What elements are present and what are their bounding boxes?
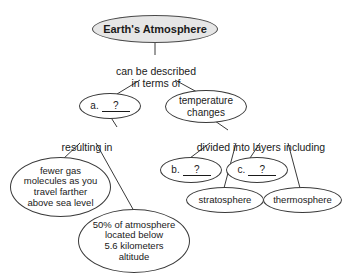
- node-earths-atmosphere[interactable]: Earth's Atmosphere: [92, 15, 218, 43]
- node-a-blank-prefix: a.: [90, 100, 98, 111]
- node-fewer-gas-molecules[interactable]: fewer gas molecules as you travel farthe…: [10, 157, 111, 217]
- link-label-text-can-be-described: can be described in terms of: [116, 65, 196, 89]
- node-c-blank[interactable]: c. ?: [226, 157, 288, 183]
- node-fifty-percent-atmosphere[interactable]: 50% of atmosphere located below 5.6 kilo…: [78, 209, 190, 273]
- node-b-blank-content: b. ?: [171, 164, 210, 176]
- node-thermosphere[interactable]: thermosphere: [263, 187, 342, 213]
- node-label-temperature-changes: temperature changes: [175, 95, 237, 117]
- link-label-text-resulting-in: resulting in: [62, 141, 113, 153]
- node-a-blank[interactable]: a. ?: [79, 93, 141, 119]
- link-label-divided-into-layers: divided into layers including: [185, 130, 337, 154]
- node-label-thermosphere: thermosphere: [269, 195, 336, 206]
- node-label-stratosphere: stratosphere: [195, 195, 256, 206]
- node-b-blank-prefix: b.: [171, 164, 179, 175]
- node-stratosphere[interactable]: stratosphere: [186, 187, 264, 213]
- node-temperature-changes[interactable]: temperature changes: [165, 90, 247, 123]
- node-label-fewer-gas-molecules: fewer gas molecules as you travel farthe…: [20, 166, 101, 209]
- node-label-earths-atmosphere: Earth's Atmosphere: [99, 23, 211, 35]
- node-b-blank[interactable]: b. ?: [160, 157, 222, 183]
- node-c-blank-field[interactable]: ?: [248, 164, 276, 176]
- node-a-blank-field[interactable]: ?: [102, 100, 130, 112]
- link-label-resulting-in: resulting in: [51, 130, 123, 154]
- link-label-text-divided-into-layers: divided into layers including: [197, 141, 325, 153]
- node-c-blank-prefix: c.: [238, 164, 246, 175]
- node-c-blank-content: c. ?: [238, 164, 277, 176]
- node-label-fifty-percent-atmosphere: 50% of atmosphere located below 5.6 kilo…: [89, 220, 179, 263]
- node-b-blank-field[interactable]: ?: [183, 164, 211, 176]
- concept-map-canvas: Earth's Atmosphere can be described in t…: [0, 0, 342, 277]
- node-a-blank-content: a. ?: [90, 100, 129, 112]
- link-label-can-be-described: can be described in terms of: [100, 54, 212, 90]
